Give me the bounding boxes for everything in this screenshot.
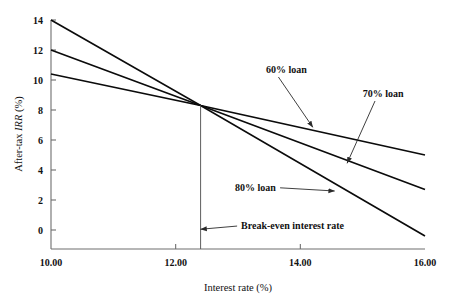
loan-70-label: 70% loan — [363, 88, 404, 99]
break-even-leader-line — [201, 226, 238, 229]
y-axis-title-italic: IRR — [13, 114, 24, 132]
loan-80-label: 80% loan — [235, 182, 276, 193]
y-axis-title-suffix: (%) — [13, 96, 25, 115]
loan-60-label: 60% loan — [266, 64, 307, 75]
y-tick-label-6: 6 — [38, 135, 43, 146]
loan-70-leader-line — [347, 101, 375, 163]
x-tick-label-10.00: 10.00 — [40, 257, 63, 268]
x-tick-label-12.00: 12.00 — [164, 257, 187, 268]
series-lines — [51, 20, 425, 236]
loan-60-leader-line — [278, 77, 312, 127]
loan-80-leader-line — [280, 188, 335, 191]
x-axis-ticks: 10.0012.0014.0016.00 — [40, 244, 437, 268]
y-axis-ticks: 02468101214 — [33, 15, 56, 236]
y-tick-label-0: 0 — [38, 225, 43, 236]
after-tax-irr-vs-interest-rate-chart: 02468101214 10.0012.0014.0016.00 60% loa… — [0, 0, 462, 295]
x-tick-label-14.00: 14.00 — [289, 257, 312, 268]
y-tick-label-10: 10 — [33, 75, 43, 86]
y-tick-label-4: 4 — [38, 165, 43, 176]
y-axis-title-prefix: After-tax — [13, 131, 24, 172]
chart-root: 02468101214 10.0012.0014.0016.00 60% loa… — [0, 0, 462, 295]
chart-axes — [51, 20, 425, 249]
break-even-label: Break-even interest rate — [241, 220, 344, 231]
x-axis-title: Interest rate (%) — [204, 282, 273, 294]
y-tick-label-8: 8 — [38, 105, 43, 116]
y-tick-label-14: 14 — [33, 15, 43, 26]
x-tick-label-16.00: 16.00 — [414, 257, 437, 268]
y-tick-label-12: 12 — [33, 45, 43, 56]
y-tick-label-2: 2 — [38, 195, 43, 206]
series-line-70-loan — [51, 50, 425, 190]
y-axis-title: After-tax IRR (%) — [13, 96, 25, 172]
